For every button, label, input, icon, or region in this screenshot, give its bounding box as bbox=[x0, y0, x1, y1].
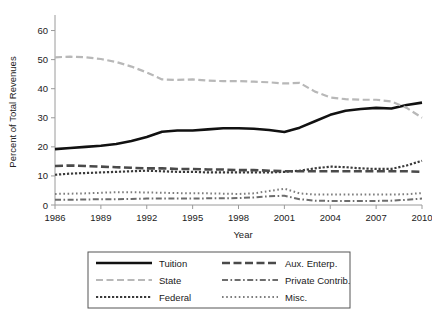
y-axis-title: Percent of Total Revenues bbox=[7, 56, 18, 168]
legend-label-private-contrib: Private Contrib. bbox=[285, 275, 350, 286]
chart-canvas: 0102030405060 19861989199219951998200120… bbox=[0, 0, 432, 315]
legend-label-tuition: Tuition bbox=[159, 258, 187, 269]
x-tick-label: 2001 bbox=[274, 212, 295, 223]
y-tick-label: 10 bbox=[37, 170, 48, 181]
y-tick-label: 50 bbox=[37, 54, 48, 65]
x-tick-label: 1995 bbox=[182, 212, 203, 223]
x-tick-label: 1992 bbox=[136, 212, 157, 223]
legend-label-aux-enterp: Aux. Enterp. bbox=[285, 258, 337, 269]
y-tick-label: 30 bbox=[37, 112, 48, 123]
y-tick-label: 0 bbox=[43, 200, 48, 211]
x-tick-label: 2007 bbox=[366, 212, 387, 223]
x-tick-label: 1989 bbox=[90, 212, 111, 223]
y-tick-label: 20 bbox=[37, 141, 48, 152]
legend-label-misc: Misc. bbox=[285, 292, 307, 303]
x-tick-label: 1986 bbox=[44, 212, 65, 223]
y-tick-label: 60 bbox=[37, 25, 48, 36]
y-tick-label: 40 bbox=[37, 83, 48, 94]
legend-label-state: State bbox=[159, 275, 181, 286]
chart-background bbox=[0, 0, 432, 315]
legend-label-federal: Federal bbox=[159, 292, 191, 303]
x-tick-label: 1998 bbox=[228, 212, 249, 223]
x-tick-label: 2004 bbox=[320, 212, 341, 223]
x-axis-title: Year bbox=[233, 229, 252, 240]
x-tick-label: 2010 bbox=[411, 212, 432, 223]
revenue-share-line-chart: 0102030405060 19861989199219951998200120… bbox=[0, 0, 432, 315]
